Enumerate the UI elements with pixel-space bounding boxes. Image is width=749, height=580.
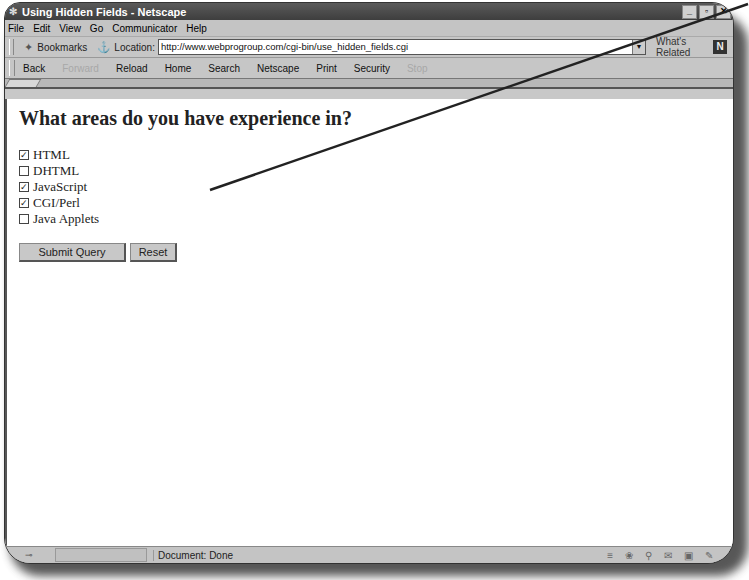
title-bar[interactable]: ✻ Using Hidden Fields - Netscape _ ▫ ✕ [5, 3, 733, 20]
whats-related-button[interactable]: What's Related [656, 36, 713, 58]
progress-bar [55, 548, 147, 562]
collapsed-toolbar-tab[interactable] [5, 79, 42, 87]
toolbar-grip[interactable] [9, 60, 15, 76]
back-button[interactable]: Back [23, 63, 45, 74]
menu-bar: File Edit View Go Communicator Help [5, 20, 733, 37]
menu-component-icon[interactable]: ≡ [607, 550, 613, 561]
status-text: Document: Done [153, 550, 233, 561]
url-dropdown-icon[interactable]: ▼ [632, 40, 645, 54]
checkbox-cgi-perl[interactable]: ✓ CGI/Perl [19, 195, 733, 211]
checkbox-label: CGI/Perl [33, 195, 80, 211]
restore-button[interactable]: ▫ [699, 5, 714, 19]
experience-checkbox-list: ✓ HTML DHTML ✓ JavaScript ✓ CGI/Perl Jav… [19, 147, 733, 227]
page-heading: What areas do you have experience in? [19, 107, 733, 130]
bookmarks-button[interactable]: Bookmarks [37, 42, 87, 53]
forward-button: Forward [62, 63, 99, 74]
checkbox-html[interactable]: ✓ HTML [19, 147, 733, 163]
home-button[interactable]: Home [165, 63, 192, 74]
menu-go[interactable]: Go [90, 23, 103, 34]
security-button[interactable]: Security [354, 63, 390, 74]
url-input[interactable]: http://www.webprogroup.com/cgi-bin/use_h… [158, 39, 646, 55]
mail-component-icon[interactable]: ✉ [664, 550, 672, 561]
menu-file[interactable]: File [8, 23, 24, 34]
toolbar-grip[interactable] [9, 39, 14, 55]
checkbox-checked-icon[interactable]: ✓ [19, 150, 29, 160]
stop-button: Stop [407, 63, 428, 74]
location-icon: ⚓ [97, 41, 111, 54]
menu-communicator[interactable]: Communicator [112, 23, 177, 34]
toolbar-tab-strip [5, 79, 733, 89]
submit-query-button[interactable]: Submit Query [19, 243, 126, 262]
form-buttons: Submit Query Reset [19, 243, 733, 262]
minimize-button[interactable]: _ [682, 5, 697, 19]
status-bar: ⊸ Document: Done ≡ ❀ ⚲ ✉ ▣ ✎ [5, 546, 733, 563]
checkbox-javascript[interactable]: ✓ JavaScript [19, 179, 733, 195]
navigation-toolbar: Back Forward Reload Home Search Netscape… [5, 58, 733, 79]
menu-help[interactable]: Help [186, 23, 207, 34]
checkbox-label: DHTML [33, 163, 79, 179]
netscape-button[interactable]: Netscape [257, 63, 299, 74]
netscape-logo[interactable]: N [713, 40, 727, 54]
menu-view[interactable]: View [59, 23, 81, 34]
reset-button[interactable]: Reset [130, 243, 177, 262]
netscape-app-icon: ✻ [9, 7, 19, 17]
checkbox-java-applets[interactable]: Java Applets [19, 211, 733, 227]
bookmarks-icon: ✦ [22, 40, 34, 54]
checkbox-label: JavaScript [33, 179, 87, 195]
url-text: http://www.webprogroup.com/cgi-bin/use_h… [161, 41, 408, 52]
print-button[interactable]: Print [316, 63, 337, 74]
checkbox-label: HTML [33, 147, 70, 163]
reload-button[interactable]: Reload [116, 63, 148, 74]
security-lock-icon[interactable]: ⊸ [25, 550, 47, 560]
checkbox-checked-icon[interactable]: ✓ [19, 182, 29, 192]
menu-edit[interactable]: Edit [33, 23, 50, 34]
component-bar: ≡ ❀ ⚲ ✉ ▣ ✎ [595, 550, 713, 561]
composer-component-icon[interactable]: ▣ [684, 550, 693, 561]
checkbox-dhtml[interactable]: DHTML [19, 163, 733, 179]
edit-component-icon[interactable]: ✎ [705, 550, 713, 561]
browser-window: ✻ Using Hidden Fields - Netscape _ ▫ ✕ F… [4, 2, 734, 564]
messenger-component-icon[interactable]: ⚲ [645, 550, 652, 561]
search-button[interactable]: Search [208, 63, 240, 74]
close-button[interactable]: ✕ [716, 5, 731, 19]
checkbox-unchecked-icon[interactable] [19, 214, 29, 224]
window-title: Using Hidden Fields - Netscape [22, 6, 682, 18]
checkbox-label: Java Applets [33, 211, 99, 227]
checkbox-unchecked-icon[interactable] [19, 166, 29, 176]
location-label: Location: [114, 42, 155, 53]
navigator-component-icon[interactable]: ❀ [625, 550, 633, 561]
page-content: What areas do you have experience in? ✓ … [5, 99, 733, 547]
checkbox-checked-icon[interactable]: ✓ [19, 198, 29, 208]
location-toolbar: ✦ Bookmarks ⚓ Location: http://www.webpr… [5, 37, 733, 58]
